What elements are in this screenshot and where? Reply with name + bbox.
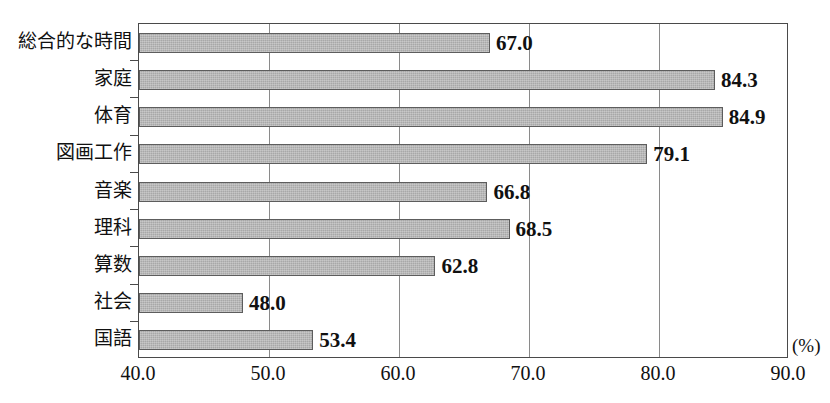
category-label: 体育	[0, 106, 132, 126]
y-axis-tick	[130, 135, 138, 136]
bar-value-label: 68.5	[516, 219, 553, 239]
y-axis-tick	[130, 284, 138, 285]
bar-value-label: 66.8	[493, 182, 530, 202]
bar-value-label: 53.4	[319, 330, 356, 350]
category-label: 家庭	[0, 69, 132, 89]
bar	[139, 144, 647, 164]
category-label: 総合的な時間	[0, 32, 132, 52]
y-axis-tick	[130, 172, 138, 173]
bar	[139, 330, 313, 350]
y-axis-tick	[130, 97, 138, 98]
y-axis-tick	[130, 209, 138, 210]
horizontal-bar-chart: 総合的な時間家庭体育図画工作音楽理科算数社会国語 (%) 67.084.384.…	[0, 0, 830, 403]
bar	[139, 70, 715, 90]
y-axis-tick	[130, 60, 138, 61]
bar-value-label: 84.3	[721, 70, 758, 90]
y-axis-tick	[130, 246, 138, 247]
x-axis-tick-label: 40.0	[121, 362, 156, 384]
x-axis-tick-label: 60.0	[381, 362, 416, 384]
category-axis: 総合的な時間家庭体育図画工作音楽理科算数社会国語	[0, 23, 132, 358]
y-axis-tick	[130, 321, 138, 322]
bar-value-label: 48.0	[249, 293, 286, 313]
x-axis-unit-label: (%)	[792, 336, 820, 356]
category-label: 図画工作	[0, 143, 132, 163]
bar	[139, 219, 510, 239]
bar	[139, 256, 435, 276]
bar	[139, 293, 243, 313]
bar-value-label: 67.0	[496, 33, 533, 53]
category-label: 音楽	[0, 181, 132, 201]
x-axis-tick-label: 80.0	[641, 362, 676, 384]
bar-value-label: 84.9	[729, 107, 766, 127]
category-label: 国語	[0, 329, 132, 349]
category-label: 理科	[0, 218, 132, 238]
bar-value-label: 79.1	[653, 144, 690, 164]
bar-value-label: 62.8	[441, 256, 478, 276]
x-axis-tick-label: 50.0	[251, 362, 286, 384]
category-label: 算数	[0, 255, 132, 275]
plot-area	[138, 23, 788, 358]
bar	[139, 33, 490, 53]
bar	[139, 107, 723, 127]
x-axis-tick-label: 90.0	[771, 362, 806, 384]
category-label: 社会	[0, 292, 132, 312]
x-axis-tick-label: 70.0	[511, 362, 546, 384]
bar	[139, 182, 487, 202]
